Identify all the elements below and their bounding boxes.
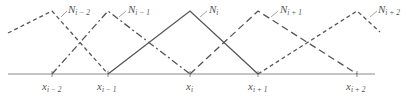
label-x-i-minus-1: xi − 1 <box>97 81 117 94</box>
curve-n-i <box>108 11 258 74</box>
label-n-i: Ni <box>209 4 218 17</box>
label-n-i-minus-1: Ni − 1 <box>128 4 150 17</box>
label-x-i-minus-2: xi − 2 <box>42 81 62 94</box>
curve-n-i-plus-1 <box>190 11 357 74</box>
label-n-i-minus-2: Ni − 2 <box>68 4 90 17</box>
label-n-i-plus-2: Ni + 2 <box>378 4 400 17</box>
label-x-i-plus-1: xi + 1 <box>248 81 268 94</box>
basis-function-diagram: Ni − 2 Ni − 1 Ni Ni + 1 Ni + 2 xi − 2 xi… <box>0 0 406 99</box>
label-n-i-plus-1: Ni + 1 <box>280 4 302 17</box>
curve-n-i-minus-2 <box>8 11 108 74</box>
label-x-i-plus-2: xi + 2 <box>346 81 366 94</box>
curve-n-i-plus-2 <box>258 11 380 74</box>
label-x-i: xi <box>186 81 193 94</box>
